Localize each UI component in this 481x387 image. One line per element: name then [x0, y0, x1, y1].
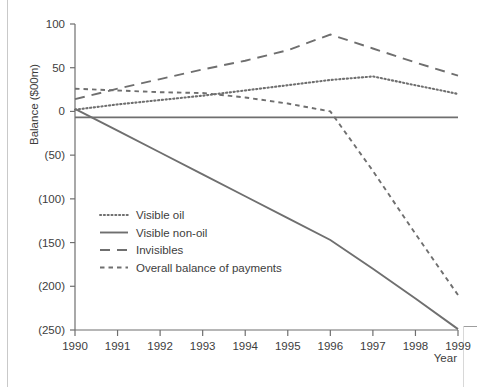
chart-legend: Visible oilVisible non-oilInvisiblesOver… — [100, 209, 282, 274]
y-axis-title-text: Balance ($00m) — [28, 64, 40, 145]
y-tick-label: (50) — [45, 149, 66, 161]
y-axis-title: Balance ($00m) — [28, 64, 40, 145]
y-tick-label: 0 — [59, 105, 65, 117]
y-tick-label: (100) — [38, 193, 65, 205]
x-axis: 1990199119921993199419951996199719981999 — [62, 330, 471, 352]
x-axis-title: Year — [434, 352, 457, 364]
legend-label-overall-balance-of-payments: Overall balance of payments — [136, 262, 282, 274]
y-tick-label: (250) — [38, 324, 65, 336]
x-tick-label: 1999 — [445, 340, 471, 352]
series-line-visible-non-oil — [75, 109, 458, 329]
x-tick-label: 1996 — [318, 340, 344, 352]
x-tick-label: 1993 — [190, 340, 216, 352]
x-tick-label: 1997 — [360, 340, 386, 352]
x-tick-label: 1998 — [403, 340, 429, 352]
x-tick-label: 1995 — [275, 340, 301, 352]
y-tick-label: 50 — [52, 62, 65, 74]
legend-label-visible-oil: Visible oil — [136, 209, 184, 221]
x-tick-label: 1992 — [147, 340, 173, 352]
y-tick-label: (200) — [38, 280, 65, 292]
x-tick-label: 1994 — [232, 340, 258, 352]
series-line-invisibles — [75, 34, 458, 99]
series-line-visible-oil — [75, 76, 458, 109]
legend-label-visible-non-oil: Visible non-oil — [136, 227, 207, 239]
series-layer — [75, 34, 458, 329]
balance-of-payments-line-chart: Balance ($00m) 100500(50)(100)(150)(200)… — [0, 0, 481, 387]
chart-page: Balance ($00m) 100500(50)(100)(150)(200)… — [0, 0, 481, 387]
legend-label-invisibles: Invisibles — [136, 244, 184, 256]
x-tick-label: 1990 — [62, 340, 88, 352]
x-tick-label: 1991 — [105, 340, 131, 352]
y-tick-label: (150) — [38, 237, 65, 249]
y-axis: 100500(50)(100)(150)(200)(250) — [38, 18, 75, 336]
y-tick-label: 100 — [46, 18, 65, 30]
